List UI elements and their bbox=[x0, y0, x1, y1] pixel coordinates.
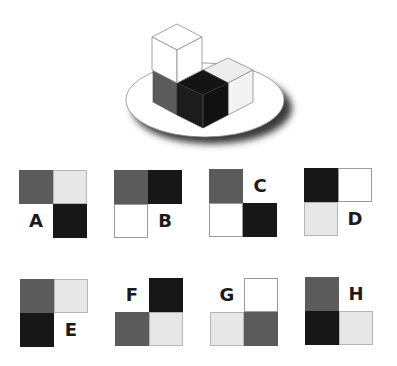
option-g[interactable]: G bbox=[210, 278, 280, 348]
option-label: F bbox=[115, 278, 149, 312]
cube-arrangement-illustration bbox=[0, 0, 397, 160]
option-label: G bbox=[210, 278, 244, 312]
cell-black bbox=[304, 168, 338, 202]
cell-black bbox=[148, 170, 182, 204]
cell-dark-gray bbox=[19, 170, 53, 204]
cell-dark-gray bbox=[115, 312, 149, 346]
cell-light-gray bbox=[53, 170, 87, 204]
cell-white bbox=[244, 278, 278, 312]
option-e[interactable]: E bbox=[20, 279, 90, 349]
cell-dark-gray bbox=[114, 170, 148, 204]
cell-dark-gray bbox=[244, 312, 278, 346]
cell-light-gray bbox=[210, 312, 244, 346]
option-label: H bbox=[339, 277, 373, 311]
option-b[interactable]: B bbox=[114, 170, 184, 240]
cell-black bbox=[305, 311, 339, 345]
option-label: E bbox=[54, 313, 88, 347]
cell-white bbox=[114, 204, 148, 238]
option-label: A bbox=[19, 204, 53, 238]
option-h[interactable]: H bbox=[305, 277, 375, 347]
cell-white bbox=[209, 203, 243, 237]
white-cube bbox=[152, 24, 202, 83]
option-c[interactable]: C bbox=[209, 169, 279, 239]
cell-black bbox=[20, 313, 54, 347]
cell-dark-gray bbox=[305, 277, 339, 311]
option-a[interactable]: A bbox=[19, 170, 89, 240]
cell-dark-gray bbox=[209, 169, 243, 203]
cell-light-gray bbox=[149, 312, 183, 346]
cell-light-gray bbox=[54, 279, 88, 313]
option-f[interactable]: F bbox=[115, 278, 185, 348]
option-label: C bbox=[243, 169, 277, 203]
cell-white bbox=[338, 168, 372, 202]
option-label: B bbox=[148, 204, 182, 238]
option-label: D bbox=[338, 202, 372, 236]
cell-dark-gray bbox=[20, 279, 54, 313]
cell-black bbox=[243, 203, 277, 237]
cell-black bbox=[149, 278, 183, 312]
cell-black bbox=[53, 204, 87, 238]
option-d[interactable]: D bbox=[304, 168, 374, 238]
cell-light-gray bbox=[339, 311, 373, 345]
cell-light-gray bbox=[304, 202, 338, 236]
